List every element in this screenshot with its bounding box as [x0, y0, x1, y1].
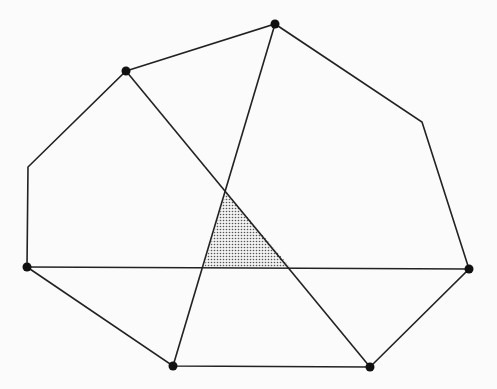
shaded-triangle [204, 192, 290, 267]
polygon-diagram [0, 0, 497, 389]
diagonal-line [173, 24, 275, 366]
vertex-dot [122, 67, 131, 76]
vertex-dot [465, 265, 474, 274]
diagonals [27, 24, 469, 367]
diagonal-line [27, 267, 469, 269]
vertex-dot [169, 362, 178, 371]
vertex-dot [271, 20, 280, 29]
polygon-outline [27, 24, 469, 367]
vertex-dot [366, 363, 375, 372]
vertex-dot [23, 263, 32, 272]
vertices [23, 20, 474, 372]
